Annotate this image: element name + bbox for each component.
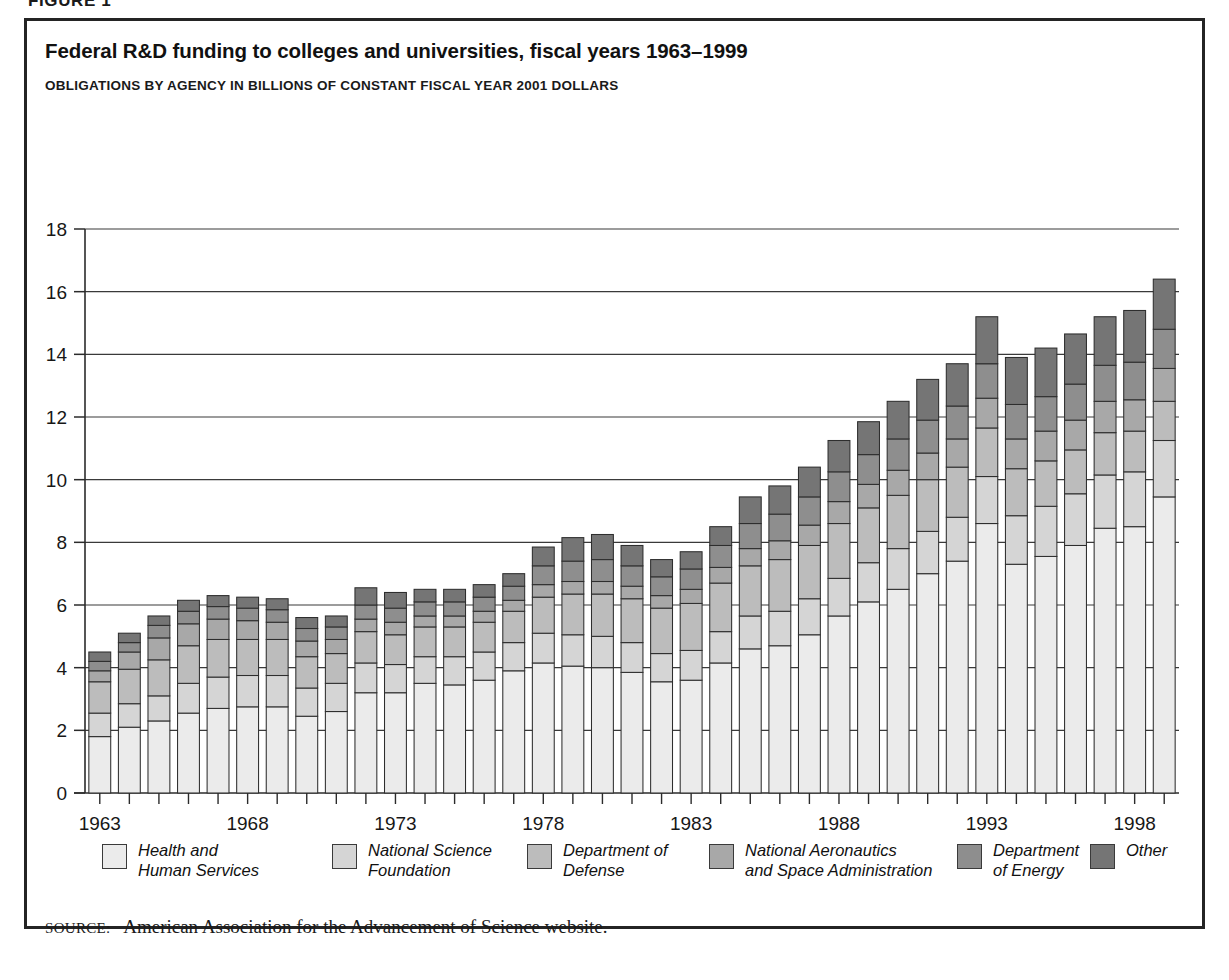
legend-item-hhs[interactable]: Health and Human Services	[102, 841, 259, 880]
bar-segment-dod	[621, 599, 643, 643]
bar-segment-other	[148, 616, 170, 625]
chart-title: Federal R&D funding to colleges and univ…	[45, 39, 748, 63]
bar-segment-nsf	[858, 563, 880, 602]
bar-segment-doe	[739, 524, 761, 549]
bar-segment-doe	[887, 439, 909, 470]
bar-segment-hhs	[887, 589, 909, 793]
legend-item-nasa[interactable]: National Aeronautics and Space Administr…	[709, 841, 932, 880]
bar-segment-nasa	[946, 439, 968, 467]
y-axis-label: 4	[56, 658, 67, 679]
x-axis-label: 1973	[374, 813, 416, 834]
bar-segment-nasa	[1094, 401, 1116, 432]
bar-segment-hhs	[680, 680, 702, 793]
bar-segment-hhs	[178, 713, 200, 793]
bar-segment-doe	[89, 661, 111, 670]
bar-segment-other	[325, 616, 347, 627]
bar-segment-nsf	[355, 663, 377, 693]
bar-1988	[828, 441, 850, 794]
bar-1994	[1005, 357, 1027, 793]
bar-segment-hhs	[355, 693, 377, 793]
bar-segment-other	[178, 600, 200, 611]
bar-1974	[414, 589, 436, 793]
bar-segment-nsf	[532, 633, 554, 663]
bar-segment-nsf	[710, 632, 732, 663]
bar-segment-nasa	[976, 398, 998, 428]
bar-segment-nasa	[444, 616, 466, 627]
bar-segment-dod	[444, 627, 466, 657]
bar-1992	[946, 364, 968, 793]
bar-segment-dod	[503, 611, 525, 642]
x-axis-label: 1998	[1114, 813, 1156, 834]
bar-segment-nasa	[414, 616, 436, 627]
bar-segment-nsf	[414, 657, 436, 684]
bar-segment-nsf	[266, 676, 288, 707]
bar-segment-other	[946, 364, 968, 406]
bar-1966	[178, 600, 200, 793]
legend-item-dod[interactable]: Department of Defense	[527, 841, 668, 880]
bar-segment-doe	[917, 420, 939, 453]
bar-segment-nasa	[798, 525, 820, 545]
bar-segment-hhs	[621, 672, 643, 793]
bar-segment-doe	[296, 629, 318, 642]
bar-segment-nsf	[976, 477, 998, 524]
bar-segment-other	[858, 422, 880, 455]
bar-segment-other	[917, 379, 939, 420]
bar-1986	[769, 486, 791, 793]
bar-segment-hhs	[385, 693, 407, 793]
bar-segment-dod	[532, 597, 554, 633]
bar-segment-hhs	[1153, 497, 1175, 793]
bar-segment-doe	[207, 607, 229, 620]
bar-segment-nsf	[1124, 472, 1146, 527]
bar-segment-dod	[917, 480, 939, 532]
bar-1999	[1153, 279, 1175, 793]
bar-segment-other	[473, 585, 495, 598]
bar-segment-nsf	[1094, 475, 1116, 528]
bar-segment-hhs	[237, 707, 259, 793]
bar-segment-dod	[1035, 461, 1057, 506]
bar-segment-dod	[355, 632, 377, 663]
bar-segment-nsf	[739, 616, 761, 649]
bar-segment-nasa	[887, 470, 909, 495]
bar-segment-doe	[710, 545, 732, 567]
bar-segment-dod	[296, 657, 318, 688]
bar-segment-hhs	[976, 524, 998, 793]
bar-segment-doe	[532, 566, 554, 585]
bar-segment-nsf	[444, 657, 466, 685]
bar-segment-other	[798, 467, 820, 497]
bar-segment-nsf	[680, 650, 702, 680]
legend-label-doe: Department of Energy	[993, 841, 1079, 880]
bar-segment-other	[710, 527, 732, 546]
bar-segment-doe	[444, 602, 466, 616]
bar-1997	[1094, 317, 1116, 793]
bar-segment-dod	[680, 603, 702, 650]
bar-segment-nsf	[296, 688, 318, 716]
bar-segment-dod	[1094, 433, 1116, 475]
legend-label-dod: Department of Defense	[563, 841, 668, 880]
bar-segment-nasa	[651, 596, 673, 609]
bar-segment-hhs	[532, 663, 554, 793]
bar-segment-nasa	[621, 586, 643, 599]
legend-item-nsf[interactable]: National Science Foundation	[332, 841, 492, 880]
bar-segment-hhs	[769, 646, 791, 793]
bar-segment-nsf	[769, 611, 791, 645]
bar-segment-nasa	[1035, 431, 1057, 461]
legend-swatch-nsf	[332, 844, 357, 869]
bar-segment-nsf	[178, 683, 200, 713]
bar-segment-doe	[178, 611, 200, 624]
legend-swatch-doe	[957, 844, 982, 869]
x-axis-label: 1978	[522, 813, 564, 834]
source-prefix: SOURCE:	[45, 920, 110, 936]
legend-item-other[interactable]: Other	[1090, 841, 1167, 869]
bar-segment-dod	[1065, 450, 1087, 494]
bar-segment-hhs	[1094, 528, 1116, 793]
y-axis-label: 18	[46, 219, 67, 240]
bar-segment-other	[1153, 279, 1175, 329]
bar-1978	[532, 547, 554, 793]
bar-segment-dod	[1005, 469, 1027, 516]
bar-segment-hhs	[858, 602, 880, 793]
bar-1996	[1065, 334, 1087, 793]
legend-item-doe[interactable]: Department of Energy	[957, 841, 1079, 880]
bar-segment-other	[1065, 334, 1087, 384]
x-axis-label: 1968	[226, 813, 268, 834]
legend-label-other: Other	[1126, 841, 1167, 861]
